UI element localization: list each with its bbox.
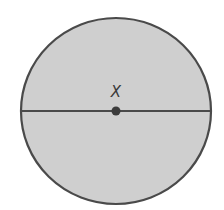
circle-diagram: X (0, 0, 224, 210)
center-point (112, 107, 121, 116)
center-label: X (110, 83, 122, 101)
